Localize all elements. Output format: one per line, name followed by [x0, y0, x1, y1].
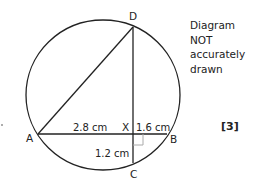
- right-angle-marker: [133, 134, 143, 145]
- length-ax: 2.8 cm: [73, 122, 107, 133]
- label-b: B: [170, 133, 177, 145]
- label-c: C: [130, 168, 137, 180]
- note-line: NOT: [190, 33, 245, 48]
- not-accurate-note: Diagram NOT accurately drawn: [190, 18, 245, 76]
- label-a: A: [26, 132, 34, 144]
- note-line: Diagram: [190, 18, 245, 33]
- line-ad: [38, 27, 133, 134]
- length-xc: 1.2 cm: [95, 148, 129, 159]
- note-line: accurately: [190, 47, 245, 62]
- label-d: D: [129, 10, 137, 22]
- marks-label: [3]: [221, 120, 239, 133]
- note-line: drawn: [190, 62, 245, 77]
- stray-dot: [1, 124, 3, 126]
- length-xb: 1.6 cm: [136, 122, 170, 133]
- label-x: X: [122, 121, 129, 133]
